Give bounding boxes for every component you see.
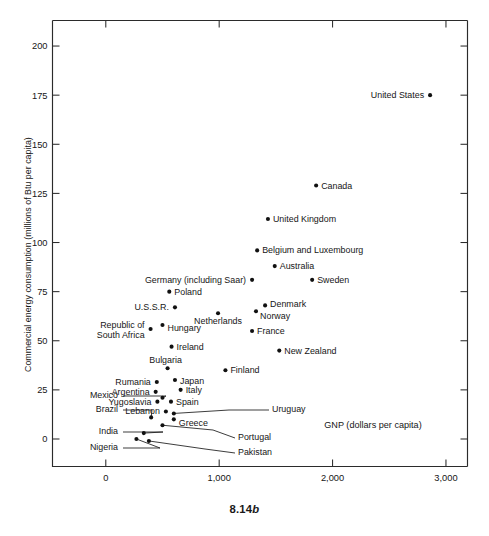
data-point-label: Canada xyxy=(321,181,352,191)
x-tick-label: 3,000 xyxy=(434,473,457,483)
data-point-marker xyxy=(314,183,318,187)
data-point-label: Belgium and Luxembourg xyxy=(262,245,363,255)
leader-line xyxy=(174,410,269,413)
data-point-label: Lebanon xyxy=(125,406,160,416)
data-point-marker xyxy=(223,368,227,372)
y-tick-label: 175 xyxy=(32,91,48,101)
data-point-marker xyxy=(160,423,164,427)
caption-letter: b xyxy=(252,503,259,515)
data-point-marker xyxy=(166,366,170,370)
x-axis-title: GNP (dollars per capita) xyxy=(324,420,421,430)
caption-number: 8.14 xyxy=(230,503,253,515)
data-point-marker xyxy=(155,400,159,404)
data-point-label: Nigeria xyxy=(90,442,118,452)
data-point-marker xyxy=(250,329,254,333)
figure-caption: 8.14b xyxy=(0,503,489,515)
y-tick-label: 100 xyxy=(32,238,48,248)
data-point-marker xyxy=(167,290,171,294)
data-point-marker xyxy=(428,93,432,97)
data-point-marker xyxy=(155,380,159,384)
data-point-marker xyxy=(149,327,153,331)
y-tick-label: 75 xyxy=(37,287,47,297)
y-tick-label: 25 xyxy=(37,385,47,395)
data-point-label-line2: South Africa xyxy=(97,330,145,340)
scatter-chart: 0255075100125150175200 01,0002,0003,000 … xyxy=(0,0,489,536)
x-tick-label: 0 xyxy=(103,473,108,483)
data-point-marker xyxy=(160,396,164,400)
data-point-label: Republic of xyxy=(100,320,145,330)
data-point-label: Denmark xyxy=(270,299,307,309)
data-point-label: India xyxy=(99,426,118,436)
data-point-marker xyxy=(216,311,220,315)
data-point-marker xyxy=(170,345,174,349)
data-point-marker xyxy=(273,264,277,268)
figure-container: 0255075100125150175200 01,0002,0003,000 … xyxy=(0,0,489,536)
data-point-label: Bulgaria xyxy=(149,355,182,365)
data-point-label: Netherlands xyxy=(194,316,242,326)
data-point-label: Greece xyxy=(179,418,208,428)
y-axis-ticks: 0255075100125150175200 xyxy=(32,41,468,444)
data-point-label: United States xyxy=(371,90,425,100)
data-point-marker xyxy=(160,323,164,327)
data-point-label: Uruguay xyxy=(272,404,306,414)
data-point-marker xyxy=(164,409,168,413)
data-point-marker xyxy=(154,390,158,394)
y-tick-label: 50 xyxy=(37,336,47,346)
data-point-marker xyxy=(134,437,138,441)
data-point-marker xyxy=(254,309,258,313)
data-point-label: Hungary xyxy=(167,323,201,333)
data-point-label: Germany (including Saar) xyxy=(145,275,246,285)
y-tick-label: 125 xyxy=(32,189,48,199)
data-point-label: Italy xyxy=(186,385,203,395)
data-point-label: Ireland xyxy=(177,342,204,352)
data-point-marker xyxy=(310,278,314,282)
data-point-label: Brazil xyxy=(96,404,118,414)
x-tick-label: 2,000 xyxy=(321,473,344,483)
data-point-marker xyxy=(173,305,177,309)
data-point-marker xyxy=(250,278,254,282)
data-point-marker xyxy=(173,378,177,382)
data-point-marker xyxy=(142,431,146,435)
data-point-marker xyxy=(266,217,270,221)
data-point-label: Sweden xyxy=(317,275,349,285)
y-tick-label: 0 xyxy=(42,434,47,444)
data-point-marker xyxy=(277,349,281,353)
data-point-marker xyxy=(169,400,173,404)
x-tick-label: 1,000 xyxy=(208,473,231,483)
data-point-label: Australia xyxy=(280,261,315,271)
data-point-label: U.S.S.R. xyxy=(134,302,169,312)
data-point-label: Norway xyxy=(260,311,291,321)
data-point-label: Finland xyxy=(230,365,259,375)
data-point-label: New Zealand xyxy=(284,346,336,356)
data-point-marker xyxy=(255,248,259,252)
data-point-label: United Kingdom xyxy=(273,214,336,224)
data-point-marker xyxy=(147,439,151,443)
data-point-label: Portugal xyxy=(238,432,271,442)
data-point-label: France xyxy=(257,326,285,336)
data-point-label: Rumania xyxy=(115,377,151,387)
leader-line xyxy=(123,439,160,448)
data-point-label: Spain xyxy=(176,397,199,407)
data-point-marker xyxy=(263,303,267,307)
data-point-marker xyxy=(172,417,176,421)
data-point-label: Pakistan xyxy=(238,447,272,457)
y-tick-label: 200 xyxy=(32,41,48,51)
y-axis-title: Commercial energy consumption (millions … xyxy=(23,137,33,372)
leader-line xyxy=(149,441,235,453)
data-point-label: Poland xyxy=(174,287,202,297)
data-point-labels: United StatesCanadaUnited KingdomBelgium… xyxy=(90,90,425,457)
y-tick-label: 150 xyxy=(32,140,48,150)
data-point-marker xyxy=(172,411,176,415)
data-point-marker xyxy=(179,388,183,392)
